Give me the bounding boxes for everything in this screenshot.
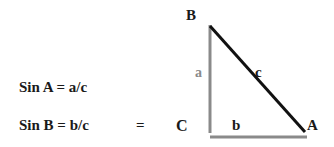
formula-sin-b: Sin B = b/c xyxy=(19,118,89,133)
vertex-a-label: A xyxy=(307,118,318,133)
vertex-b-label: B xyxy=(186,8,196,23)
equals-sign: = xyxy=(136,118,145,133)
side-b-label: b xyxy=(232,118,240,133)
side-c-label: c xyxy=(255,65,262,80)
formula-sin-a: Sin A = a/c xyxy=(19,80,87,95)
vertex-c-label: C xyxy=(176,118,188,134)
side-a-label: a xyxy=(195,66,202,80)
